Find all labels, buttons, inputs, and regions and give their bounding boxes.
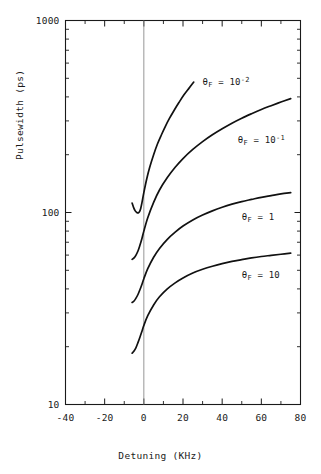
label-equals-value: = 1 bbox=[252, 212, 274, 222]
label-exponent: -1 bbox=[276, 134, 285, 142]
x-tick-label-80: 80 bbox=[284, 412, 318, 423]
x-tick-label-0: 0 bbox=[127, 412, 161, 423]
x-tick-label-neg40: -40 bbox=[49, 412, 83, 423]
x-tick-label-20: 20 bbox=[166, 412, 200, 423]
curve-3 bbox=[132, 193, 291, 303]
label-equals-value: = 10 bbox=[213, 78, 241, 88]
curve-label-1: θF = 10-2 bbox=[203, 76, 250, 89]
curve-1 bbox=[132, 82, 194, 213]
y-axis-title: Pulsewidth (ps) bbox=[14, 70, 25, 160]
curve-label-2: θF = 10-1 bbox=[238, 134, 285, 147]
label-exponent: -2 bbox=[241, 76, 250, 84]
x-tick-label-60: 60 bbox=[244, 412, 278, 423]
y-tick-label-1000: 1000 bbox=[26, 15, 60, 26]
label-equals-value: = 10 bbox=[252, 270, 280, 280]
curve-label-3: θF = 1 bbox=[242, 212, 275, 224]
y-tick-label-10: 10 bbox=[26, 399, 60, 410]
curve-2 bbox=[132, 99, 291, 260]
label-equals-value: = 10 bbox=[248, 135, 276, 145]
curve-4 bbox=[132, 253, 291, 353]
x-axis-title: Detuning (KHz) bbox=[0, 450, 321, 461]
x-tick-label-40: 40 bbox=[205, 412, 239, 423]
x-tick-label-neg20: -20 bbox=[88, 412, 122, 423]
figure-container: 101001000 -40-20020406080 θF = 10-2θF = … bbox=[0, 0, 321, 474]
curve-label-4: θF = 10 bbox=[242, 270, 280, 282]
y-tick-label-100: 100 bbox=[26, 207, 60, 218]
